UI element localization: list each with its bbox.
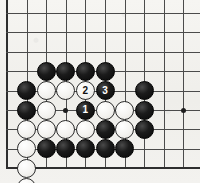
white-stone-move-2[interactable]: 2: [76, 81, 95, 100]
black-stone-a6[interactable]: [17, 101, 36, 120]
black-stone-move-3-number-label: 3: [97, 82, 114, 99]
go-board-diagram: 231: [0, 0, 200, 183]
white-stone-f6[interactable]: [96, 101, 115, 120]
white-stone-e7[interactable]: [76, 120, 95, 139]
black-stone-e8[interactable]: [76, 139, 95, 158]
white-stone-a7[interactable]: [17, 120, 36, 139]
stone-layer: 231: [0, 0, 200, 183]
white-stone-move-2-number-label: 2: [77, 82, 94, 99]
black-stone-f8[interactable]: [96, 139, 115, 158]
white-stone-c7[interactable]: [37, 120, 56, 139]
white-stone-g7[interactable]: [115, 120, 134, 139]
white-stone-a9[interactable]: [17, 159, 36, 178]
black-stone-a5[interactable]: [17, 81, 36, 100]
black-stone-f4[interactable]: [96, 62, 115, 81]
black-stone-h6[interactable]: [135, 101, 154, 120]
black-stone-h7[interactable]: [135, 120, 154, 139]
black-stone-d4[interactable]: [56, 62, 75, 81]
black-stone-move-1[interactable]: 1: [76, 101, 95, 120]
white-stone-d5[interactable]: [56, 81, 75, 100]
white-stone-a8[interactable]: [17, 139, 36, 158]
black-stone-c4[interactable]: [37, 62, 56, 81]
white-stone-c6[interactable]: [37, 101, 56, 120]
black-stone-move-3[interactable]: 3: [96, 81, 115, 100]
black-stone-h5[interactable]: [135, 81, 154, 100]
black-stone-c8[interactable]: [37, 139, 56, 158]
black-stone-g8[interactable]: [115, 139, 134, 158]
black-stone-move-1-number-label: 1: [77, 102, 94, 119]
white-stone-a10-offboard[interactable]: [17, 178, 36, 183]
black-stone-d8[interactable]: [56, 139, 75, 158]
white-stone-c5[interactable]: [37, 81, 56, 100]
white-stone-d7[interactable]: [56, 120, 75, 139]
white-stone-g6[interactable]: [115, 101, 134, 120]
black-stone-e4[interactable]: [76, 62, 95, 81]
black-stone-f7[interactable]: [96, 120, 115, 139]
